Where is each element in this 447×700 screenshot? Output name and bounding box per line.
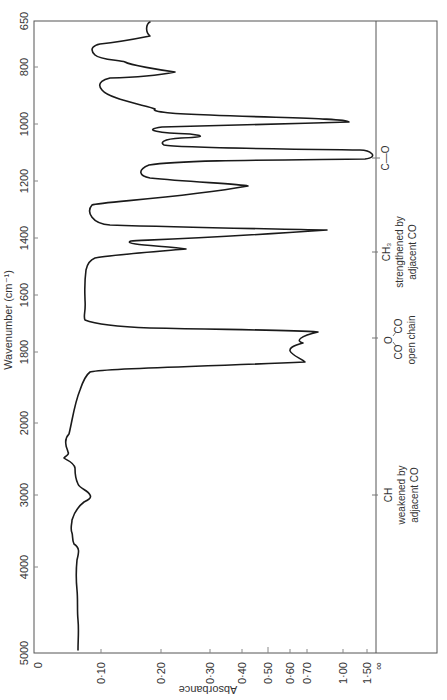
tick-abs-inf: ∞ [372,662,384,670]
annotation-c-o-text: C—O [380,145,391,170]
annotation-ch-line1: CH [383,488,394,502]
tick-1800: 1800 [18,340,30,364]
absorbance-ticks [101,647,367,653]
tick-abs-060: 0·60 [284,662,296,684]
tick-800: 800 [18,58,30,76]
ir-spectrum-chart: 650 800 1000 1200 1400 1600 1800 2000 30… [0,0,447,700]
annotation-ch-line3: adjacent CO [409,467,420,523]
tick-1000: 1000 [18,112,30,136]
annotation-ch3-line2: strengthened by [394,216,405,288]
spectrum-trace [64,22,373,650]
annotation-ch-line2: weakened by [396,466,407,526]
annotation-anhydride-line2: open chain [406,316,417,365]
tick-abs-030: 0·30 [204,662,216,684]
tick-abs-070: 0·70 [301,662,313,684]
tick-abs-050: 0·50 [262,662,274,684]
tick-1200: 1200 [18,169,30,193]
tick-1600: 1600 [18,283,30,307]
annotation-anhydride-o: O [383,336,394,344]
annotation-ch3: CH₃ strengthened by adjacent CO [381,216,418,288]
absorbance-axis-title: Absorbance [179,684,238,696]
tick-abs-010: 0·10 [95,662,107,684]
tick-4000: 4000 [18,555,30,579]
tick-abs-0: 0 [32,662,44,668]
annotation-c-o: C—O [380,145,391,170]
tick-1400: 1400 [18,226,30,250]
tick-abs-100: 1·00 [337,662,349,684]
tick-650: 650 [18,12,30,30]
wavenumber-tick-labels: 650 800 1000 1200 1400 1600 1800 2000 30… [18,12,30,665]
wavenumber-axis-title: Wavenumber (cm⁻¹) [2,270,14,370]
wavenumber-ticks [34,67,38,567]
absorbance-tick-labels: 0 0·10 0·20 0·30 0·40 0·50 0·60 0·70 1·0… [32,662,384,684]
tick-5000: 5000 [18,641,30,665]
tick-abs-020: 0·20 [155,662,167,684]
tick-2000: 2000 [18,411,30,435]
annotation-ch: CH weakened by adjacent CO [383,466,420,526]
annotation-anhydride-co-right: CO [393,318,404,333]
annotation-ch3-line3: adjacent CO [407,224,418,280]
tick-abs-040: 0·40 [236,662,248,684]
annotation-ch3-line1: CH₃ [381,243,392,262]
annotation-anhydride: CO O CO open chain [383,316,417,365]
tick-3000: 3000 [18,483,30,507]
annotation-anhydride-co-left: CO [393,344,404,359]
